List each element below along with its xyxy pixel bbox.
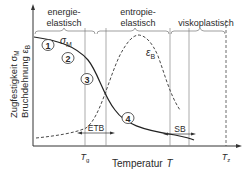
tz-tick-label: Tz — [222, 152, 231, 163]
brace-entropie — [97, 28, 169, 34]
svg-text:2: 2 — [65, 54, 70, 64]
y-axis-arrow-icon — [31, 4, 35, 10]
brace-energie — [35, 28, 95, 34]
diagram-canvas: 1 2 3 4 energie- elastisch entropie- ela… — [0, 0, 244, 173]
elongation-curve — [36, 35, 180, 138]
marker-2: 2 — [62, 53, 74, 64]
region-label: entropie- — [120, 7, 156, 17]
region-label: elastisch — [120, 18, 155, 28]
arrow-right-icon — [191, 133, 196, 136]
tg-tick-label: Tg — [81, 152, 90, 163]
marker-3: 3 — [81, 74, 93, 85]
arrow-right-icon — [110, 132, 115, 135]
svg-text:1: 1 — [45, 41, 50, 51]
elongation-curve-label: εB — [146, 47, 155, 60]
x-axis-label: TemperaturT — [112, 158, 174, 169]
sb-label: SB — [174, 124, 186, 134]
svg-text:3: 3 — [84, 75, 89, 85]
y-axis-label: Zugfestigkeit σM Bruchdehnung εB — [8, 45, 31, 118]
strength-curve-label: σM — [60, 35, 72, 48]
region-label: viskoplastisch — [178, 18, 234, 28]
region-label: elastisch — [46, 18, 81, 28]
svg-text:4: 4 — [125, 114, 130, 124]
brace-visko — [171, 28, 225, 34]
marker-1: 1 — [42, 40, 54, 51]
region-label: energie- — [47, 7, 80, 17]
marker-4: 4 — [122, 113, 134, 124]
etb-label: ETB — [88, 123, 105, 133]
arrow-left-icon — [77, 132, 82, 135]
x-axis-arrow-icon — [236, 144, 242, 148]
svg-text:Bruchdehnung εB: Bruchdehnung εB — [19, 45, 31, 118]
